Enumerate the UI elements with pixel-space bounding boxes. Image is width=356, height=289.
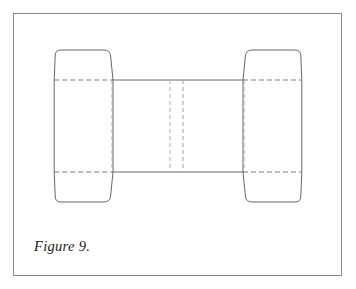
right-flap-cut-outline [243,50,302,202]
left-flap-cut-outline [54,50,113,202]
figure-caption: Figure 9. [34,238,90,255]
figure-container: Figure 9. [0,0,356,289]
